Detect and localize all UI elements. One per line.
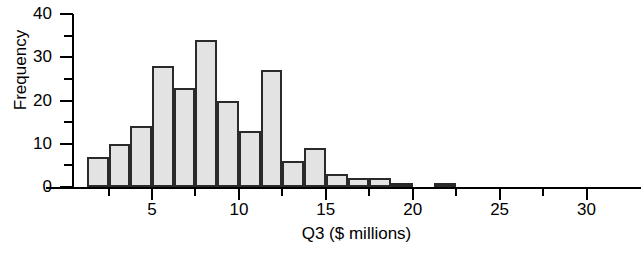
x-tick-label: 5: [122, 200, 182, 220]
histogram-bar: [217, 101, 239, 188]
x-tick-major: [586, 188, 588, 200]
histogram-bar: [87, 157, 109, 187]
y-tick-label: 20: [0, 92, 52, 109]
y-tick-major: [60, 186, 73, 188]
x-tick-label: 25: [470, 200, 530, 220]
y-tick-label: 30: [0, 48, 52, 65]
y-tick-major: [60, 13, 73, 15]
x-tick-minor: [542, 188, 544, 196]
y-axis-title: Frequency: [11, 5, 31, 135]
histogram-bar: [109, 144, 131, 187]
y-tick-minor: [64, 35, 73, 37]
x-tick-minor: [368, 188, 370, 196]
histogram-bar: [391, 183, 413, 187]
histogram-figure: Frequency 010203040 51015202530 Q3 ($ mi…: [0, 0, 643, 253]
x-axis-line: [46, 187, 641, 189]
x-tick-minor: [108, 188, 110, 196]
y-tick-minor: [64, 121, 73, 123]
x-tick-label: 30: [557, 200, 617, 220]
histogram-bar: [326, 174, 348, 187]
x-tick-label: 10: [209, 200, 269, 220]
x-tick-major: [151, 188, 153, 200]
histogram-bar: [282, 161, 304, 187]
histogram-bar: [130, 126, 152, 187]
x-axis-title-text: Q3 ($ millions): [302, 224, 412, 244]
y-tick-major: [60, 56, 73, 58]
x-tick-minor: [194, 188, 196, 196]
y-tick-major: [60, 143, 73, 145]
histogram-bar: [261, 70, 283, 187]
x-tick-minor: [281, 188, 283, 196]
y-tick-minor: [64, 78, 73, 80]
y-tick-minor: [64, 164, 73, 166]
y-tick-label: 10: [0, 135, 52, 152]
histogram-bar: [369, 178, 391, 187]
x-axis-title: Q3 ($ millions): [0, 224, 643, 244]
x-tick-label: 20: [383, 200, 443, 220]
histogram-bar: [152, 66, 174, 187]
x-tick-major: [412, 188, 414, 200]
histogram-bar: [195, 40, 217, 187]
y-axis-line: [72, 14, 74, 189]
y-tick-label: 0: [0, 178, 52, 195]
histogram-bar: [304, 148, 326, 187]
x-tick-label: 15: [296, 200, 356, 220]
x-tick-major: [325, 188, 327, 200]
histogram-bar: [174, 88, 196, 187]
y-tick-label: 40: [0, 5, 52, 22]
x-tick-major: [238, 188, 240, 200]
histogram-bar: [239, 131, 261, 187]
y-tick-major: [60, 100, 73, 102]
x-tick-major: [499, 188, 501, 200]
x-tick-minor: [455, 188, 457, 196]
histogram-bar: [434, 183, 456, 187]
histogram-bar: [348, 178, 370, 187]
